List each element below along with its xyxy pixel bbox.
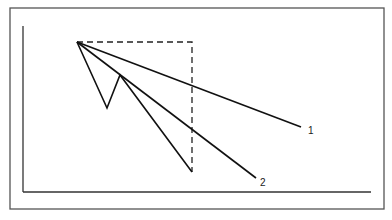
outer-frame <box>10 8 384 209</box>
ray-label-2: 2 <box>260 177 266 188</box>
ray-line-1 <box>77 42 301 127</box>
ray-line-2 <box>77 42 256 178</box>
zigzag-path <box>77 42 192 172</box>
ray-label-1: 1 <box>308 125 314 136</box>
dashed-projection <box>77 42 192 172</box>
ray-lines <box>77 42 301 178</box>
diagram-canvas: 1 2 <box>0 0 392 220</box>
